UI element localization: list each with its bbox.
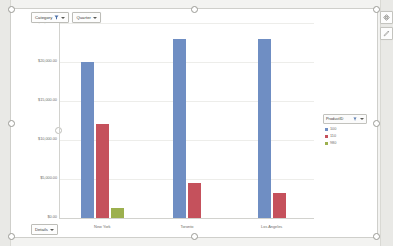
chevron-down-icon[interactable] (93, 17, 97, 19)
y-axis-tick-label: $20,000.00 (38, 58, 57, 63)
chevron-down-icon[interactable] (360, 118, 364, 120)
legend-item-label: 100 (330, 127, 336, 131)
legend-swatch (325, 128, 328, 131)
move-button[interactable] (380, 11, 393, 24)
filter-button-quarter[interactable]: Quarter (72, 12, 101, 23)
bar-group: Toronto (145, 22, 230, 218)
plot-area: $25,000.00$20,000.00$15,000.00$10,000.00… (59, 23, 314, 219)
details-button[interactable]: Details (31, 224, 58, 235)
bar[interactable] (173, 39, 186, 218)
details-label: Details (35, 225, 48, 234)
bar[interactable] (81, 62, 94, 218)
filter-bar: Category Quarter (31, 12, 101, 23)
bar[interactable] (111, 208, 124, 218)
filter-button-category[interactable]: Category (31, 12, 69, 23)
legend-item[interactable]: 980 (325, 141, 367, 145)
funnel-icon (353, 117, 358, 122)
x-axis-tick-label: New York (94, 224, 110, 229)
bar[interactable] (258, 39, 271, 218)
legend-title: ProductID (326, 115, 343, 123)
legend: ProductID 100110980 (323, 114, 367, 148)
y-axis-tick-label: $5,000.00 (40, 175, 57, 180)
legend-item-label: 980 (330, 141, 336, 145)
bar-group: Los Angeles (229, 22, 314, 218)
x-axis-tick-label: Toronto (180, 224, 193, 229)
bar-group: New York (60, 22, 145, 218)
legend-swatch (325, 142, 328, 145)
bar[interactable] (96, 124, 109, 218)
bar[interactable] (273, 193, 286, 218)
y-axis-tick-label: $15,000.00 (38, 97, 57, 102)
chart-object[interactable]: Category Quarter (10, 8, 378, 238)
filter-label-quarter: Quarter (76, 13, 91, 22)
bar[interactable] (188, 183, 201, 218)
legend-item[interactable]: 110 (325, 134, 367, 138)
legend-item-label: 110 (330, 134, 336, 138)
filter-label-category: Category (35, 13, 52, 22)
x-axis-tick-label: Los Angeles (261, 224, 282, 229)
y-axis-tick-label: $0.00 (48, 214, 58, 219)
pencil-icon (383, 30, 390, 37)
chevron-down-icon[interactable] (61, 17, 65, 19)
move-icon (383, 14, 390, 21)
legend-item[interactable]: 100 (325, 127, 367, 131)
spreadsheet-page: Category Quarter (0, 0, 393, 246)
legend-swatch (325, 135, 328, 138)
chevron-down-icon[interactable] (50, 229, 54, 231)
legend-items: 100110980 (323, 127, 367, 145)
x-axis-line (60, 218, 314, 219)
edit-button[interactable] (380, 27, 393, 40)
funnel-icon (54, 15, 59, 20)
legend-field-button[interactable]: ProductID (323, 114, 367, 124)
y-axis-tick-label: $10,000.00 (38, 136, 57, 141)
